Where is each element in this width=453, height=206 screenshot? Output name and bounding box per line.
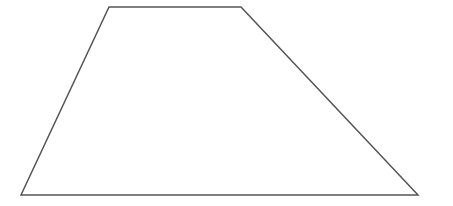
- diagram-canvas: [0, 0, 453, 206]
- trapezoid-shape: [21, 7, 418, 195]
- trapezoid-figure: [0, 0, 453, 206]
